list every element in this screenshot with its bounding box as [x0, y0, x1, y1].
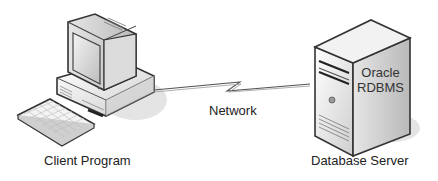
network-link [154, 82, 310, 92]
oracle-label-line1: Oracle [357, 65, 404, 80]
server-inner-label: Oracle RDBMS [357, 65, 404, 95]
network-label: Network [209, 103, 257, 118]
database-server-label: Database Server [311, 153, 409, 168]
client-program-label: Client Program [44, 153, 131, 168]
desktop-computer-icon [57, 14, 167, 120]
oracle-label-line2: RDBMS [357, 80, 404, 95]
